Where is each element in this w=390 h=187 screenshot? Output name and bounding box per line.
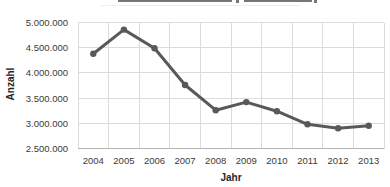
y-tick-label: 5.000.000	[0, 17, 68, 28]
data-point-2010	[274, 108, 280, 114]
line-chart: Anzahl Jahr 5.000.0004.500.0004.000.0003…	[0, 0, 390, 187]
data-point-2004	[90, 51, 96, 57]
y-tick-label: 4.000.000	[0, 67, 68, 78]
data-point-2005	[121, 26, 127, 32]
data-point-2007	[182, 82, 188, 88]
x-tick-label: 2005	[108, 155, 140, 166]
data-point-2011	[304, 121, 310, 127]
y-tick-label: 3.000.000	[0, 118, 68, 129]
y-tick-label: 4.500.000	[0, 42, 68, 53]
data-point-2012	[335, 125, 341, 131]
data-point-2009	[243, 99, 249, 105]
y-tick-label: 2.500.000	[0, 143, 68, 154]
x-axis-title: Jahr	[78, 171, 384, 184]
x-tick-label: 2011	[292, 155, 324, 166]
x-tick-label: 2010	[261, 155, 293, 166]
data-point-2006	[151, 45, 157, 51]
x-tick-label: 2009	[230, 155, 262, 166]
y-tick-label: 3.500.000	[0, 93, 68, 104]
x-tick-label: 2013	[353, 155, 385, 166]
x-tick-label: 2004	[77, 155, 109, 166]
x-tick-label: 2008	[200, 155, 232, 166]
x-tick-label: 2007	[169, 155, 201, 166]
x-tick-label: 2006	[139, 155, 171, 166]
data-point-2013	[366, 123, 372, 129]
x-tick-label: 2012	[322, 155, 354, 166]
data-point-2008	[213, 107, 219, 113]
